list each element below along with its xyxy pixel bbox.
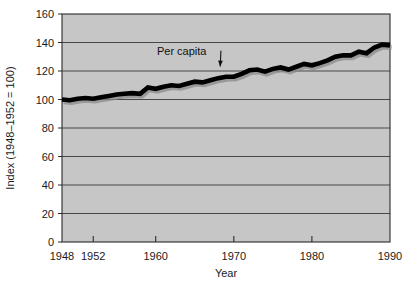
y-tick-label: 100 — [36, 94, 54, 106]
y-axis-title: Index (1948–1952 = 100) — [4, 66, 16, 189]
series-annotation-label: Per capita — [157, 45, 207, 57]
y-tick-label: 20 — [42, 208, 54, 220]
x-axis-title: Year — [215, 267, 238, 279]
per-capita-line-chart: 194819521960197019801990 020406080100120… — [0, 0, 420, 290]
y-tick-label: 140 — [36, 37, 54, 49]
y-tick-label: 80 — [42, 122, 54, 134]
y-tick-label: 160 — [36, 8, 54, 20]
x-tick-label: 1980 — [300, 250, 324, 262]
y-tick-label: 120 — [36, 65, 54, 77]
y-tick-label: 0 — [48, 236, 54, 248]
y-tick-label: 60 — [42, 151, 54, 163]
x-tick-label: 1970 — [222, 250, 246, 262]
x-tick-label: 1960 — [143, 250, 167, 262]
chart-figure: 194819521960197019801990 020406080100120… — [0, 0, 420, 290]
x-tick-label: 1948 — [50, 250, 74, 262]
x-tick-label: 1952 — [81, 250, 105, 262]
y-tick-label: 40 — [42, 179, 54, 191]
x-tick-label: 1990 — [378, 250, 402, 262]
